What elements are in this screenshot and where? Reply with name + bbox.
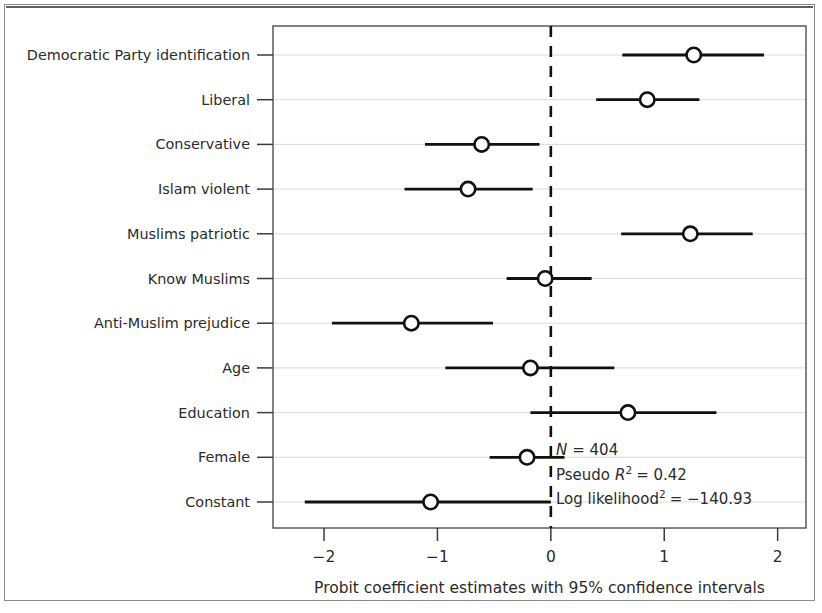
y-axis-label: Democratic Party identification	[27, 47, 250, 63]
annotation-n: N= 404	[556, 441, 618, 459]
estimate-marker	[523, 361, 537, 375]
estimate-marker	[474, 137, 488, 151]
estimate-point-group	[445, 361, 614, 375]
y-axis: Democratic Party identificationLiberalCo…	[27, 47, 273, 510]
x-tick-label: 0	[546, 548, 556, 566]
estimate-marker	[621, 405, 635, 419]
estimate-marker	[461, 182, 475, 196]
estimate-point-group	[490, 450, 565, 464]
y-axis-label: Female	[198, 449, 250, 465]
coefficient-plot: Democratic Party identificationLiberalCo…	[0, 0, 822, 613]
estimate-point-group	[622, 48, 764, 62]
annotation-log-likelihood: Log likelihood2= −140.93	[556, 488, 752, 508]
estimate-point-group	[305, 495, 551, 509]
x-axis: −2−1012	[313, 528, 783, 566]
y-axis-label: Education	[178, 405, 250, 421]
estimate-point-group	[405, 182, 533, 196]
estimate-marker	[640, 93, 654, 107]
estimate-marker	[687, 48, 701, 62]
x-tick-label: −1	[426, 548, 449, 566]
y-axis-label: Know Muslims	[148, 271, 250, 287]
estimate-point-group	[507, 271, 592, 285]
figure-container: Democratic Party identificationLiberalCo…	[0, 0, 822, 613]
estimate-point-group	[332, 316, 493, 330]
estimate-marker	[423, 495, 437, 509]
y-axis-label: Anti-Muslim prejudice	[94, 315, 250, 331]
y-axis-label: Constant	[185, 494, 250, 510]
y-axis-label: Age	[222, 360, 250, 376]
annotation-pseudo-r2: PseudoR2= 0.42	[556, 464, 687, 484]
y-axis-label: Conservative	[155, 136, 250, 152]
estimate-marker	[683, 227, 697, 241]
estimate-point-group	[621, 227, 753, 241]
x-tick-label: 1	[659, 548, 669, 566]
x-axis-title: Probit coefficient estimates with 95% co…	[314, 579, 765, 597]
x-tick-label: 2	[773, 548, 783, 566]
estimate-marker	[520, 450, 534, 464]
model-statistics-annotation: N= 404PseudoR2= 0.42Log likelihood2= −14…	[556, 441, 752, 508]
x-tick-label: −2	[313, 548, 336, 566]
estimate-point-group	[530, 405, 716, 419]
y-axis-label: Islam violent	[158, 181, 250, 197]
estimate-point-group	[425, 137, 540, 151]
estimate-point-group	[596, 93, 699, 107]
y-axis-label: Liberal	[201, 92, 250, 108]
estimate-marker	[538, 271, 552, 285]
estimate-marker	[404, 316, 418, 330]
y-axis-label: Muslims patriotic	[127, 226, 250, 242]
